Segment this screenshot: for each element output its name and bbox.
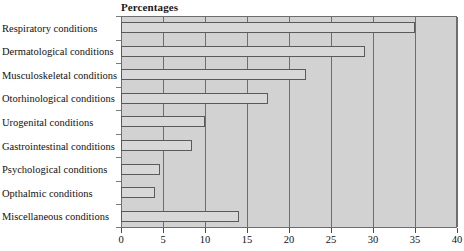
bar[interactable] <box>121 211 239 222</box>
category-label: Dermatological conditions <box>2 46 116 57</box>
x-axis-tick <box>289 228 290 233</box>
x-axis-tick-label: 5 <box>160 234 165 245</box>
category-label: Psychological conditions <box>2 164 116 175</box>
bar[interactable] <box>121 93 268 104</box>
category-label: Musculoskeletal conditions <box>2 69 116 80</box>
bar[interactable] <box>121 140 192 151</box>
bar-row <box>121 134 457 158</box>
gridline <box>457 17 458 227</box>
x-axis-tick <box>415 228 416 233</box>
chart-title: Percentages <box>121 1 178 13</box>
chart-screenshot: Percentages Respiratory conditionsDermat… <box>0 0 464 251</box>
bar[interactable] <box>121 69 306 80</box>
bar-row <box>121 157 457 181</box>
category-label: Opthalmic conditions <box>2 187 116 198</box>
x-axis-tick-label: 20 <box>284 234 295 245</box>
category-label: Miscellaneous conditions <box>2 211 116 222</box>
bar[interactable] <box>121 187 155 198</box>
x-axis-tick-label: 25 <box>326 234 337 245</box>
bar-row <box>121 63 457 87</box>
x-axis-tick-label: 40 <box>452 234 463 245</box>
category-label: Gastrointestinal conditions <box>2 140 116 151</box>
x-axis-tick-label: 15 <box>242 234 253 245</box>
x-axis-tick-label: 10 <box>200 234 211 245</box>
category-label: Respiratory conditions <box>2 22 116 33</box>
bar-row <box>121 16 457 40</box>
bar[interactable] <box>121 164 160 175</box>
bar-row <box>121 40 457 64</box>
bar-row <box>121 204 457 228</box>
bars-layer <box>121 16 457 228</box>
x-axis-tick <box>205 228 206 233</box>
x-axis-tick <box>457 228 458 233</box>
x-axis-tick-label: 0 <box>118 234 123 245</box>
bar-row <box>121 87 457 111</box>
x-axis-tick-label: 35 <box>410 234 421 245</box>
x-axis-tick-label: 30 <box>368 234 379 245</box>
category-label: Urogenital conditions <box>2 117 116 128</box>
x-axis-tick <box>163 228 164 233</box>
bar-row <box>121 110 457 134</box>
x-axis-tick <box>331 228 332 233</box>
bar[interactable] <box>121 22 415 33</box>
bar[interactable] <box>121 46 365 57</box>
x-axis-tick <box>373 228 374 233</box>
x-axis-tick <box>121 228 122 233</box>
x-axis-tick-labels: 0510152025303540 <box>0 234 464 250</box>
bar-row <box>121 181 457 205</box>
category-label: Otorhinological conditions <box>2 93 116 104</box>
category-labels: Respiratory conditionsDermatological con… <box>0 16 119 228</box>
bar[interactable] <box>121 116 205 127</box>
x-axis-tick <box>247 228 248 233</box>
